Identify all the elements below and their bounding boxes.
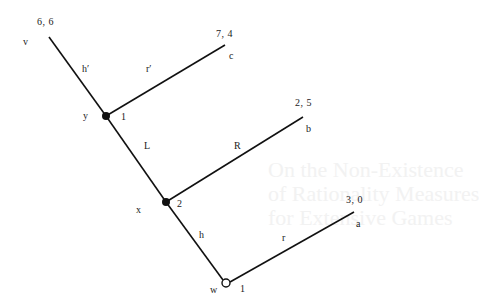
edge-label-r-prime: r′ [146,64,152,74]
terminal-label-b: b [306,124,311,134]
edge-label-R: R [234,141,241,151]
payoff-v: 6, 6 [37,17,54,27]
edge-label-L: L [144,141,150,151]
terminal-label-v: v [23,37,28,47]
node-y-player: 1 [121,112,126,122]
edge-label-h: h [199,230,204,240]
terminal-label-a: a [356,219,360,229]
edge-label-h-prime: h′ [82,64,89,74]
payoff-b: 2, 5 [295,98,312,108]
edge-L [106,116,166,202]
node-w-player: 1 [240,284,245,294]
node-x-player: 2 [177,199,182,209]
payoff-c: 7, 4 [216,29,233,39]
edge-r-prime [106,45,225,116]
terminal-label-c: c [229,51,233,61]
payoff-a: 3, 0 [346,195,363,205]
edge-r [230,212,354,282]
node-label-x: x [136,205,141,215]
edge-label-r: r [282,233,285,243]
edge-h-prime [49,37,106,116]
edge-R [166,117,303,202]
node-w-open-circle [222,279,230,287]
node-label-w: w [210,285,217,295]
node-label-y: y [83,111,88,121]
edge-h [166,202,223,280]
node-y-filled-dot [102,112,110,120]
node-x-filled-dot [162,198,170,206]
